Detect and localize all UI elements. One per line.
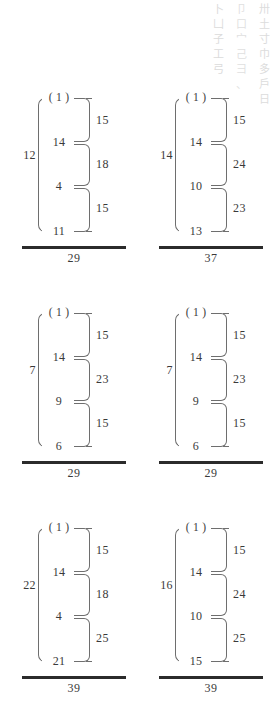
outer-total: 16 xyxy=(149,578,173,593)
sum-rule xyxy=(159,246,263,249)
outer-total: 12 xyxy=(12,148,36,163)
problem-cell: 22 ( 1 ) 14 4 21 15 18 25 39 xyxy=(0,518,137,712)
stack-number: 10 xyxy=(179,179,213,194)
problem-cell: 12 ( 1 ) 14 4 11 15 18 15 29 xyxy=(0,88,137,303)
problem-cell: 7 ( 1 ) 14 9 6 15 23 15 29 xyxy=(0,303,137,518)
bleed-glyph: 卩 xyxy=(236,4,247,16)
bleed-glyph: 巾 xyxy=(259,49,270,61)
addend-value: 15 xyxy=(233,416,246,431)
sub-brace-icon xyxy=(211,403,227,447)
bleed-glyph: 卜 xyxy=(213,4,224,16)
outer-total: 22 xyxy=(12,578,36,593)
addend-value: 18 xyxy=(96,157,109,172)
stack-number: 14 xyxy=(42,565,76,580)
addend-value: 15 xyxy=(96,543,109,558)
addend-value: 23 xyxy=(233,201,246,216)
group-label: ( 1 ) xyxy=(179,521,213,533)
grand-total: 29 xyxy=(22,251,126,266)
addend-value: 15 xyxy=(96,113,109,128)
grand-total: 37 xyxy=(159,251,263,266)
sub-brace-icon xyxy=(74,188,90,232)
group-label: ( 1 ) xyxy=(42,306,76,318)
group-label: ( 1 ) xyxy=(179,306,213,318)
stack-number: 14 xyxy=(179,565,213,580)
stack-number: 14 xyxy=(179,350,213,365)
bracket-problem: 22 ( 1 ) 14 4 21 15 18 25 39 xyxy=(12,518,137,693)
sub-brace-icon xyxy=(211,188,227,232)
bleed-glyph: 寸 xyxy=(259,34,270,46)
sub-brace-icon xyxy=(74,574,90,616)
stack-number: 9 xyxy=(42,394,76,409)
sum-rule xyxy=(22,461,126,464)
stack-number: 4 xyxy=(42,609,76,624)
addend-value: 23 xyxy=(96,372,109,387)
bracket-problem: 12 ( 1 ) 14 4 11 15 18 15 29 xyxy=(12,88,137,263)
stack-number: 14 xyxy=(42,135,76,150)
stack-number: 14 xyxy=(42,350,76,365)
stack-number: 6 xyxy=(179,439,213,454)
stack-number: 4 xyxy=(42,179,76,194)
stack-number: 21 xyxy=(42,654,76,669)
sum-rule xyxy=(159,676,263,679)
problem-cell: 7 ( 1 ) 14 9 6 15 23 15 29 xyxy=(137,303,274,518)
grand-total: 39 xyxy=(22,681,126,696)
sub-brace-icon xyxy=(211,98,227,142)
sub-brace-icon xyxy=(74,98,90,142)
group-label: ( 1 ) xyxy=(179,91,213,103)
bleed-glyph: 卅 xyxy=(259,4,270,16)
group-label: ( 1 ) xyxy=(42,91,76,103)
addend-value: 25 xyxy=(233,631,246,646)
grand-total: 29 xyxy=(22,466,126,481)
addend-value: 25 xyxy=(96,631,109,646)
sub-brace-icon xyxy=(74,528,90,572)
outer-total: 14 xyxy=(149,148,173,163)
stack-number: 14 xyxy=(179,135,213,150)
addend-value: 18 xyxy=(96,587,109,602)
problem-cell: 14 ( 1 ) 14 10 13 15 24 23 37 xyxy=(137,88,274,303)
stack-number: 15 xyxy=(179,654,213,669)
bleed-glyph: 子 xyxy=(213,34,224,46)
problem-row: 22 ( 1 ) 14 4 21 15 18 25 39 16 ( 1 ) xyxy=(0,518,274,712)
sub-brace-icon xyxy=(211,528,227,572)
worksheet-page: { "page": { "background": "#ffffff", "in… xyxy=(0,0,274,712)
grand-total: 39 xyxy=(159,681,263,696)
problem-cell: 16 ( 1 ) 14 10 15 15 24 25 39 xyxy=(137,518,274,712)
problem-grid: 12 ( 1 ) 14 4 11 15 18 15 29 14 ( 1 ) xyxy=(0,88,274,712)
problem-row: 12 ( 1 ) 14 4 11 15 18 15 29 14 ( 1 ) xyxy=(0,88,274,303)
sub-brace-icon xyxy=(211,574,227,616)
bleed-glyph: 凵 xyxy=(213,19,224,31)
sub-brace-icon xyxy=(211,144,227,186)
bleed-glyph: 多 xyxy=(259,64,270,76)
addend-value: 15 xyxy=(233,543,246,558)
problem-row: 7 ( 1 ) 14 9 6 15 23 15 29 7 ( 1 ) xyxy=(0,303,274,518)
bracket-problem: 7 ( 1 ) 14 9 6 15 23 15 29 xyxy=(149,303,274,478)
stack-number: 11 xyxy=(42,224,76,239)
sum-rule xyxy=(22,246,126,249)
sub-brace-icon xyxy=(74,618,90,662)
bracket-problem: 14 ( 1 ) 14 10 13 15 24 23 37 xyxy=(149,88,274,263)
addend-value: 15 xyxy=(96,416,109,431)
group-label: ( 1 ) xyxy=(42,521,76,533)
bleed-glyph: 土 xyxy=(259,19,270,31)
sub-brace-icon xyxy=(211,313,227,357)
stack-number: 13 xyxy=(179,224,213,239)
grand-total: 29 xyxy=(159,466,263,481)
bleed-glyph: 工 xyxy=(213,49,224,61)
bleed-glyph: 弓 xyxy=(213,64,224,76)
stack-number: 6 xyxy=(42,439,76,454)
sum-rule xyxy=(22,676,126,679)
bleed-glyph: 宀 xyxy=(236,34,247,46)
addend-value: 24 xyxy=(233,587,246,602)
bracket-problem: 7 ( 1 ) 14 9 6 15 23 15 29 xyxy=(12,303,137,478)
sub-brace-icon xyxy=(211,618,227,662)
outer-total: 7 xyxy=(149,363,173,378)
addend-value: 24 xyxy=(233,157,246,172)
stack-number: 9 xyxy=(179,394,213,409)
sum-rule xyxy=(159,461,263,464)
addend-value: 15 xyxy=(233,328,246,343)
addend-value: 15 xyxy=(96,201,109,216)
addend-value: 15 xyxy=(233,113,246,128)
outer-total: 7 xyxy=(12,363,36,378)
sub-brace-icon xyxy=(74,403,90,447)
addend-value: 23 xyxy=(233,372,246,387)
